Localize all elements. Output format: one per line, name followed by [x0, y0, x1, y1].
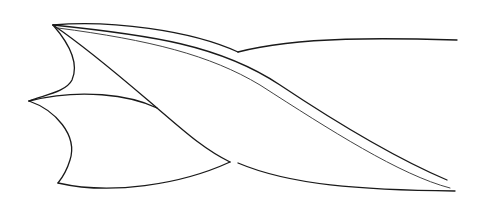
body-top-edge	[238, 39, 457, 52]
body-bottom-edge	[238, 163, 455, 191]
lower-flank-outline	[29, 101, 72, 183]
drill-bit-drawing	[0, 0, 478, 197]
lower-bottom-arc	[58, 162, 230, 188]
middle-lip-arc	[29, 94, 157, 108]
flute-edge-outer	[53, 25, 447, 180]
drill-bit-diagram	[0, 0, 478, 197]
flute-edge-inner	[58, 28, 450, 188]
upper-flank-outline	[29, 25, 74, 101]
